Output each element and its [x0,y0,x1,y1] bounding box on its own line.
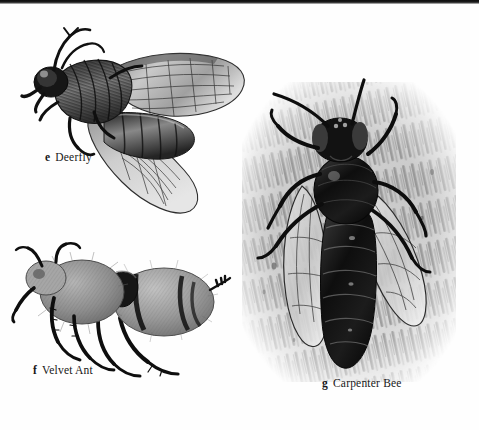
caption-letter-g: g [322,377,328,389]
caption-label-deerfly: Deerfly [55,151,92,163]
bee-head [312,118,368,162]
plate-page: eDeerfly [0,0,479,430]
scan-edge-bar [0,0,479,4]
caption-label-velvet-ant: Velvet Ant [42,364,93,376]
caption-label-carpenter-bee: Carpenter Bee [333,377,402,389]
caption-carpenter-bee: gCarpenter Bee [322,377,402,389]
deerfly-figure [18,22,253,217]
deerfly-illustration [18,22,253,217]
bee-abdomen [321,203,377,368]
caption-deerfly: eDeerfly [45,151,92,163]
bee-thorax [314,156,378,224]
caption-velvet-ant: fVelvet Ant [33,364,93,376]
caption-letter-f: f [33,364,37,376]
caption-letter-e: e [45,151,50,163]
carpenter-bee-figure [236,78,466,390]
carpenter-bee-illustration [236,78,466,390]
velvet-ant-illustration [12,240,230,382]
velvet-ant-figure [12,240,230,382]
